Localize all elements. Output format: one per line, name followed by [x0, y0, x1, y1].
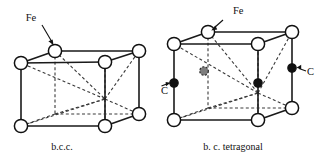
bct-hidden-edges	[174, 32, 292, 120]
edge-top-front	[21, 62, 105, 63]
caption-bcc: b.c.c.	[51, 141, 72, 152]
fe-label-bcc: Fe	[26, 12, 37, 23]
open-circle-atom-icon	[48, 44, 61, 57]
arrow-icon	[48, 40, 53, 46]
bct-c-right-leader	[296, 65, 306, 71]
bct-visible-edges	[174, 32, 292, 120]
hidden-center-atom-icon	[200, 67, 209, 76]
open-circle-atom-icon	[167, 37, 180, 50]
body-diagonal-6	[21, 63, 105, 99]
open-circle-atom-icon	[132, 44, 145, 57]
open-circle-atom-icon	[251, 37, 264, 50]
bct-fe-leader	[211, 20, 223, 30]
bcc-diagram: Fe b.c.c.	[0, 0, 161, 157]
open-circle-atom-icon	[285, 25, 298, 38]
open-circle-atom-icon	[14, 119, 27, 132]
open-circle-atom-icon	[98, 119, 111, 132]
open-circle-atom-icon	[201, 25, 214, 38]
body-diagonal-1	[55, 51, 105, 99]
filled-circle-atom-icon	[254, 79, 262, 87]
arrow-icon	[42, 25, 52, 42]
body-diagonal-6	[174, 44, 258, 93]
filled-circle-atom-icon	[288, 64, 296, 72]
crystal-structure-figure: Fe b.c.c.	[0, 0, 323, 157]
c-label-left: C	[161, 85, 168, 96]
arrow-icon	[299, 69, 306, 71]
open-circle-atom-icon	[98, 55, 111, 68]
bct-corner-atoms	[167, 25, 298, 126]
caption-bct: b. c. tetragonal	[203, 141, 263, 152]
open-circle-atom-icon	[167, 113, 180, 126]
arrow-icon	[296, 65, 301, 69]
c-label-right: C	[307, 66, 314, 77]
bct-carbon-atoms	[170, 64, 296, 87]
fe-label-bct: Fe	[233, 5, 244, 16]
bct-diagram: Fe C C b. c. tetragonal	[161, 0, 323, 157]
open-circle-atom-icon	[14, 56, 27, 69]
open-circle-atom-icon	[285, 101, 298, 114]
filled-circle-atom-icon	[170, 79, 178, 87]
body-diagonal-1	[208, 32, 258, 93]
bct-body-diagonals	[174, 32, 292, 120]
open-circle-atom-icon	[251, 113, 264, 126]
bcc-fe-leader	[42, 25, 54, 45]
open-circle-atom-icon	[132, 107, 145, 120]
